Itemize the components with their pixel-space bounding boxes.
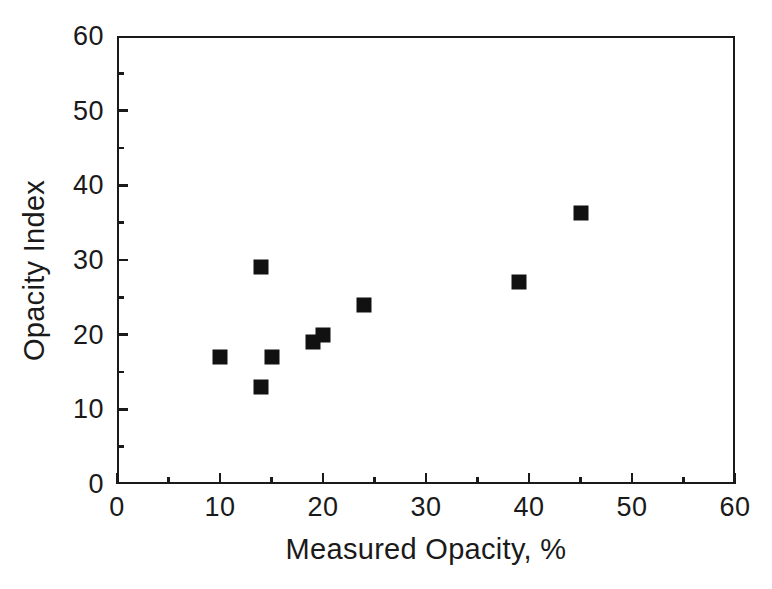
y-axis-tick xyxy=(117,184,128,187)
y-axis-minor-tick xyxy=(117,371,124,374)
data-point-marker xyxy=(264,350,279,365)
x-axis-minor-tick xyxy=(476,477,479,484)
x-axis-minor-tick xyxy=(373,477,376,484)
y-axis-tick-label: 30 xyxy=(73,245,104,275)
data-point-marker xyxy=(357,297,372,312)
y-axis-tick xyxy=(117,333,128,336)
data-point-marker xyxy=(254,379,269,394)
y-axis-tick-label: 10 xyxy=(73,394,104,424)
x-axis-tick xyxy=(219,473,222,484)
x-axis-tick-label: 50 xyxy=(616,492,647,522)
y-axis-minor-tick xyxy=(117,445,124,448)
y-axis-tick-label: 20 xyxy=(73,320,104,350)
data-point-marker xyxy=(316,327,331,342)
plot-area xyxy=(117,36,735,484)
data-point-marker xyxy=(213,350,228,365)
y-axis-tick-label: 0 xyxy=(88,469,104,499)
y-axis-minor-tick xyxy=(117,147,124,150)
y-axis-tick-labels: 0102030405060 xyxy=(0,0,104,589)
y-axis-tick-label: 50 xyxy=(73,96,104,126)
data-point-marker xyxy=(254,260,269,275)
y-axis-label: Opacity Index xyxy=(18,91,51,451)
x-axis-tick-label: 30 xyxy=(410,492,441,522)
x-axis-tick xyxy=(116,473,119,484)
data-point-marker xyxy=(511,275,526,290)
x-axis-tick xyxy=(528,473,531,484)
x-axis-tick xyxy=(631,473,634,484)
scatter-chart-figure: 0102030405060 0102030405060 Measured Opa… xyxy=(0,0,772,589)
x-axis-tick-label: 60 xyxy=(719,492,750,522)
y-axis-minor-tick xyxy=(117,296,124,299)
x-axis-tick xyxy=(734,473,737,484)
x-axis-tick xyxy=(322,473,325,484)
page-scan-artifact xyxy=(0,569,772,589)
x-axis-tick-label: 20 xyxy=(307,492,338,522)
x-axis-tick-label: 40 xyxy=(513,492,544,522)
x-axis-label: Measured Opacity, % xyxy=(117,533,735,566)
x-axis-minor-tick xyxy=(270,477,273,484)
y-axis-tick-label: 40 xyxy=(73,170,104,200)
y-axis-tick xyxy=(117,259,128,262)
y-axis-minor-tick xyxy=(117,72,124,75)
y-axis-tick-label: 60 xyxy=(73,21,104,51)
data-point-marker xyxy=(573,205,588,220)
x-axis-minor-tick xyxy=(579,477,582,484)
x-axis-tick-label: 0 xyxy=(109,492,125,522)
x-axis-minor-tick xyxy=(682,477,685,484)
y-axis-minor-tick xyxy=(117,221,124,224)
x-axis-tick-label: 10 xyxy=(204,492,235,522)
x-axis-minor-tick xyxy=(167,477,170,484)
y-axis-tick xyxy=(117,109,128,112)
x-axis-tick xyxy=(425,473,428,484)
y-axis-tick xyxy=(117,408,128,411)
